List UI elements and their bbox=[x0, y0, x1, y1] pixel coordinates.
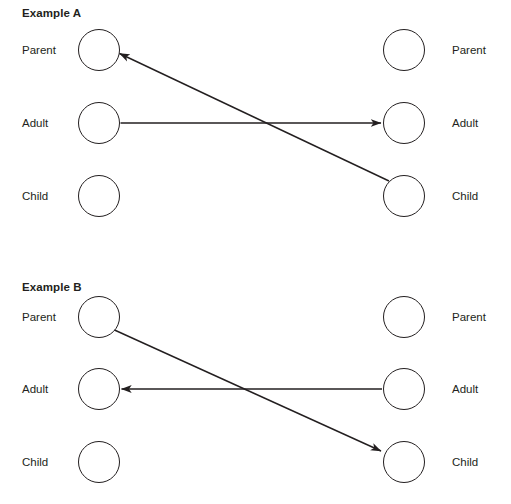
example-a-arrow-layer bbox=[0, 0, 511, 240]
example-b-right-label-child: Child bbox=[452, 455, 478, 469]
example-b-left-node-adult[interactable] bbox=[78, 368, 120, 410]
example-a-right-node-parent[interactable] bbox=[383, 29, 425, 71]
example-a-arrow-right-child-to-left-parent bbox=[120, 54, 390, 182]
diagram-canvas: Example A Parent Adult Child Parent Adul… bbox=[0, 0, 511, 504]
example-a-left-node-child[interactable] bbox=[78, 175, 120, 217]
example-a-left-node-adult[interactable] bbox=[78, 102, 120, 144]
example-b-right-node-child[interactable] bbox=[383, 441, 425, 483]
example-a-right-label-child: Child bbox=[452, 189, 478, 203]
example-a-left-label-adult: Adult bbox=[22, 116, 48, 130]
example-b-right-label-parent: Parent bbox=[452, 310, 486, 324]
example-b-right-label-adult: Adult bbox=[452, 382, 478, 396]
example-a-block: Example A Parent Adult Child Parent Adul… bbox=[0, 0, 511, 240]
example-b-title: Example B bbox=[22, 281, 82, 293]
example-a-left-node-parent[interactable] bbox=[78, 29, 120, 71]
example-b-left-label-adult: Adult bbox=[22, 382, 48, 396]
example-b-right-node-parent[interactable] bbox=[383, 296, 425, 338]
example-b-arrow-layer bbox=[0, 262, 511, 504]
example-b-block: Example B Parent Adult Child Parent Adul… bbox=[0, 262, 511, 504]
example-a-right-label-adult: Adult bbox=[452, 116, 478, 130]
example-a-right-node-child[interactable] bbox=[383, 175, 425, 217]
example-b-left-node-child[interactable] bbox=[78, 441, 120, 483]
example-b-left-node-parent[interactable] bbox=[78, 296, 120, 338]
example-a-right-label-parent: Parent bbox=[452, 43, 486, 57]
example-b-right-node-adult[interactable] bbox=[383, 368, 425, 410]
example-a-left-label-child: Child bbox=[22, 189, 48, 203]
example-b-left-label-child: Child bbox=[22, 455, 48, 469]
example-b-arrow-left-parent-to-right-child bbox=[115, 330, 382, 451]
example-a-right-node-adult[interactable] bbox=[383, 102, 425, 144]
example-a-title: Example A bbox=[22, 7, 81, 19]
example-a-left-label-parent: Parent bbox=[22, 43, 56, 57]
example-b-left-label-parent: Parent bbox=[22, 310, 56, 324]
